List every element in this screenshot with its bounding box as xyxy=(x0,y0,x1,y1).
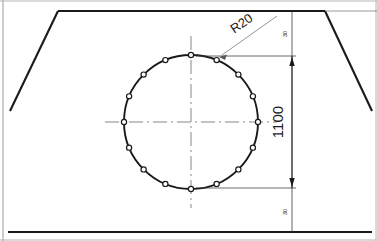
radius-leader: R20 xyxy=(219,10,277,60)
plate-outline xyxy=(8,11,377,232)
bolt-hole xyxy=(250,94,255,99)
bolt-hole xyxy=(214,58,219,63)
dimension-bottom-offset: 30 xyxy=(282,209,288,215)
technical-drawing-canvas: 1100 30 30 R20 xyxy=(0,0,377,241)
arrowhead-down xyxy=(289,178,294,187)
leader-arrowhead xyxy=(219,55,227,61)
arrowhead-up xyxy=(289,57,294,66)
dimension-label-1100: 1100 xyxy=(269,106,286,138)
bolt-hole xyxy=(163,181,168,186)
bolt-hole xyxy=(236,167,241,172)
dimension-top-offset: 30 xyxy=(282,31,288,37)
dimension-1100: 1100 xyxy=(269,11,295,232)
bolt-hole xyxy=(236,72,241,77)
bolt-hole xyxy=(141,72,146,77)
bolt-hole xyxy=(214,181,219,186)
radius-label-r20: R20 xyxy=(227,10,255,36)
center-lines xyxy=(105,36,277,208)
bolt-hole xyxy=(121,119,126,124)
bolt-hole xyxy=(163,58,168,63)
bolt-hole xyxy=(188,186,193,191)
bolt-hole xyxy=(188,52,193,57)
dimension-label-bottom-offset: 30 xyxy=(282,209,288,215)
bolt-hole xyxy=(255,119,260,124)
sheet-frame xyxy=(0,0,377,241)
bolt-hole xyxy=(141,167,146,172)
dimension-label-top-offset: 30 xyxy=(282,31,288,37)
left-chamfer-edge xyxy=(10,11,58,111)
drawing-viewport: 1100 30 30 R20 xyxy=(0,0,377,241)
bolt-hole xyxy=(250,145,255,150)
bolt-hole xyxy=(127,145,132,150)
bolt-hole xyxy=(127,94,132,99)
right-chamfer-edge xyxy=(325,11,372,111)
